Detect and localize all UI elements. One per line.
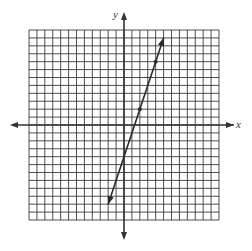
- marked-point: [154, 60, 158, 64]
- y-axis-label: y: [113, 8, 118, 20]
- line-arrow-up-icon: [158, 38, 164, 47]
- x-axis-right-arrow-icon: [226, 122, 234, 128]
- coordinate-plane: [0, 0, 252, 251]
- marked-point: [138, 107, 142, 111]
- x-axis-left-arrow-icon: [10, 122, 18, 128]
- y-axis-up-arrow-icon: [121, 12, 127, 20]
- x-axis-label: x: [236, 118, 241, 130]
- line-arrow-down-icon: [108, 196, 114, 205]
- y-axis-down-arrow-icon: [121, 232, 127, 240]
